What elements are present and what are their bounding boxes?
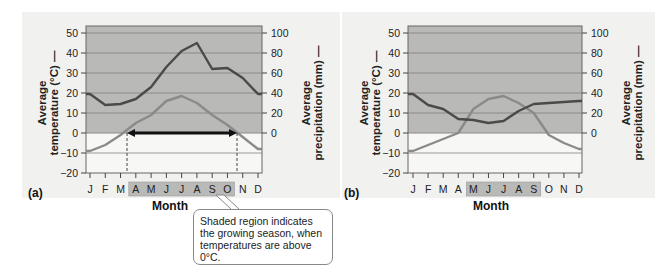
month-label: N <box>560 183 568 195</box>
y-right-tick-label: 0 <box>271 127 277 139</box>
y-left-tick-label: 0 <box>72 127 78 139</box>
x-axis-title: Month <box>473 199 509 213</box>
y-left-title: Averagetemperature (°C) — <box>36 50 60 155</box>
month-label: A <box>455 183 462 195</box>
month-label: S <box>209 183 216 195</box>
month-label: J <box>179 183 184 195</box>
x-axis-title: Month <box>152 199 188 213</box>
month-label: A <box>193 183 200 195</box>
y-left-tick-label: 40 <box>66 47 78 59</box>
month-label: A <box>515 183 522 195</box>
y-left-tick-label: −20 <box>382 167 400 179</box>
month-label: D <box>254 183 262 195</box>
y-right-tick-label: 20 <box>271 107 283 119</box>
y-right-tick-label: 0 <box>591 127 597 139</box>
y-right-tick-label: 20 <box>591 107 603 119</box>
month-label: D <box>575 183 583 195</box>
month-label: A <box>132 183 139 195</box>
y-left-title: Averagetemperature (°C) — <box>358 50 382 155</box>
y-left-tick-label: 30 <box>66 67 78 79</box>
month-label: M <box>469 183 478 195</box>
month-label: J <box>164 183 169 195</box>
y-left-tick-label: 40 <box>388 47 400 59</box>
shaded-above-zero-b <box>408 26 582 133</box>
month-label: N <box>239 183 247 195</box>
month-label: M <box>147 183 156 195</box>
y-right-tick-label: 80 <box>271 47 283 59</box>
y-left-tick-label: 20 <box>388 87 400 99</box>
shaded-above-zero-a <box>86 26 262 133</box>
y-right-title: Averageprecipitation (mm) — <box>300 45 324 161</box>
callout-text: Shaded region indicates the growing seas… <box>200 215 322 263</box>
y-right-tick-label: 40 <box>271 87 283 99</box>
y-left-tick-label: 20 <box>66 87 78 99</box>
y-left-tick-label: 10 <box>388 107 400 119</box>
panel-label-b: (b) <box>344 186 359 200</box>
month-label: O <box>223 183 231 195</box>
y-right-tick-label: 80 <box>591 47 603 59</box>
y-left-tick-label: −20 <box>60 167 78 179</box>
month-label: J <box>87 183 92 195</box>
month-label: F <box>425 183 431 195</box>
month-label: J <box>501 183 506 195</box>
climate-charts: 50403020100−10−20100806040200JFMAMJJASON… <box>0 0 668 272</box>
y-right-tick-label: 60 <box>591 67 603 79</box>
y-left-tick-label: −10 <box>382 147 400 159</box>
month-label: F <box>102 183 108 195</box>
y-right-tick-label: 100 <box>591 27 609 39</box>
y-left-tick-label: 0 <box>394 127 400 139</box>
panel-label-a: (a) <box>28 186 43 200</box>
y-left-tick-label: 10 <box>66 107 78 119</box>
y-left-tick-label: 50 <box>388 27 400 39</box>
month-label: J <box>410 183 415 195</box>
y-right-tick-label: 100 <box>271 27 289 39</box>
month-label: M <box>439 183 448 195</box>
callout-pointer <box>216 195 240 210</box>
growing-season-callout: Shaded region indicates the growing seas… <box>193 209 333 265</box>
month-label: S <box>530 183 537 195</box>
y-left-tick-label: −10 <box>60 147 78 159</box>
y-left-tick-label: 50 <box>66 27 78 39</box>
month-label: J <box>486 183 491 195</box>
y-right-tick-label: 60 <box>271 67 283 79</box>
month-label: O <box>545 183 553 195</box>
y-left-tick-label: 30 <box>388 67 400 79</box>
y-right-title: Averageprecipitation (mm) — <box>620 45 644 161</box>
y-right-tick-label: 40 <box>591 87 603 99</box>
month-label: M <box>116 183 125 195</box>
